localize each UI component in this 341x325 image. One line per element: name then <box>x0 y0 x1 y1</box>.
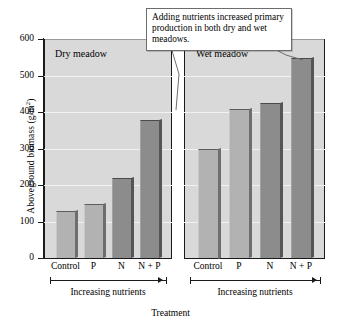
bar-side-shadow <box>218 148 221 258</box>
gridline-500 <box>44 76 172 77</box>
bar-dry-Control <box>56 211 75 258</box>
bar-side-shadow <box>75 210 78 258</box>
increasing-nutrients-label-dry: Increasing nutrients <box>40 287 176 297</box>
bar-dry-NP <box>140 120 159 258</box>
bar-side-shadow <box>311 57 314 258</box>
increasing-nutrients-label-wet: Increasing nutrients <box>180 287 330 297</box>
y-axis-label: Aboveground biomass (g/m2) <box>24 56 36 256</box>
panel-dry-bottom-border <box>44 258 172 259</box>
x-axis-label: Treatment <box>0 308 341 318</box>
panel-dry-title: Dry meadow <box>55 48 107 59</box>
y-axis-label-text: Aboveground biomass (g/m <box>26 105 36 213</box>
gridline-400 <box>44 112 172 113</box>
y-tick-label-0: 0 <box>0 253 34 262</box>
y-tick-label-500: 500 <box>0 71 34 80</box>
arrow-cap-dry-start <box>50 277 51 284</box>
bar-side-shadow <box>249 108 252 258</box>
arrow-cap-wet-start <box>190 277 191 284</box>
y-axis-label-tail: ) <box>26 99 36 102</box>
bar-side-shadow <box>131 177 134 258</box>
y-tick-label-100: 100 <box>0 217 34 226</box>
bar-side-shadow <box>159 119 162 258</box>
arrow-head-dry <box>158 277 163 283</box>
bar-wet-Control <box>198 149 218 259</box>
bar-dry-P <box>84 204 103 258</box>
bar-dry-N <box>112 178 131 258</box>
x-label-dry-NP: N + P <box>126 261 174 271</box>
y-tick-label-400: 400 <box>0 107 34 116</box>
y-tick-label-200: 200 <box>0 180 34 189</box>
bar-side-shadow <box>103 203 106 258</box>
y-tick-label-300: 300 <box>0 144 34 153</box>
arrow-head-wet <box>312 277 317 283</box>
annotation-callout-text: Adding nutrients increased primary produ… <box>152 12 284 44</box>
panel-dry-meadow: Dry meadow <box>44 39 172 258</box>
bar-wet-P <box>229 109 249 258</box>
bar-side-shadow <box>280 102 283 258</box>
annotation-callout: Adding nutrients increased primary produ… <box>146 8 292 51</box>
arrow-line-dry <box>50 280 166 281</box>
bar-wet-NP <box>291 58 311 258</box>
x-label-wet-NP: N + P <box>277 261 325 271</box>
arrow-cap-wet-end <box>320 277 321 284</box>
plot-area: Dry meadow Wet meadow <box>44 39 325 258</box>
y-axis-label-superscript: 2 <box>24 102 31 105</box>
panel-wet-bottom-border <box>184 258 325 259</box>
panel-wet-meadow: Wet meadow <box>184 39 325 258</box>
y-tick-label-600: 600 <box>0 34 34 43</box>
arrow-line-wet <box>190 280 320 281</box>
arrow-cap-dry-end <box>166 277 167 284</box>
chart-root: Aboveground biomass (g/m2) 0100200300400… <box>0 0 341 325</box>
bar-wet-N <box>260 103 280 258</box>
